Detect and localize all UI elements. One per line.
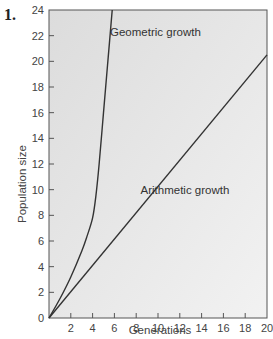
y-tick-label: 10: [32, 184, 44, 196]
x-tick-label: 20: [261, 322, 273, 334]
y-tick-label: 2: [38, 286, 44, 298]
y-tick-label: 24: [32, 4, 44, 16]
y-tick-label: 0: [38, 312, 44, 324]
y-tick-label: 12: [32, 158, 44, 170]
x-tick-label: 4: [90, 322, 96, 334]
plot-area: [49, 10, 267, 318]
y-tick-label: 20: [32, 55, 44, 67]
y-tick-label: 6: [38, 235, 44, 247]
y-tick-label: 22: [32, 30, 44, 42]
x-tick-label: 2: [68, 322, 74, 334]
geometric-growth-label: Geometric growth: [110, 26, 201, 38]
x-tick-label: 14: [195, 322, 207, 334]
growth-chart: 024681012141618202224 2468101214161820 G…: [0, 0, 273, 339]
y-tick-label: 14: [32, 132, 44, 144]
x-axis-title: Generations: [129, 324, 192, 336]
y-tick-label: 8: [38, 209, 44, 221]
x-tick-label: 18: [239, 322, 251, 334]
arithmetic-growth-label: Arithmetic growth: [141, 184, 230, 196]
y-axis-title: Population size: [16, 145, 28, 223]
y-tick-label: 4: [38, 261, 44, 273]
x-tick-label: 6: [111, 322, 117, 334]
y-tick-label: 18: [32, 81, 44, 93]
y-tick-label: 16: [32, 107, 44, 119]
x-tick-label: 16: [217, 322, 229, 334]
